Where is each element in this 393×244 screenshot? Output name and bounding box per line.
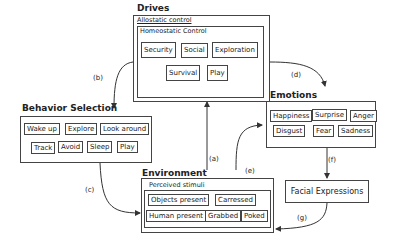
emotions-box: Happiness Surprise Anger Disgust Fear Sa… (266, 101, 376, 148)
environment-title: Environment (142, 168, 207, 178)
behavior-look-around: Look around (100, 123, 149, 135)
edge-label-e: (e) (245, 167, 255, 175)
allostatic-label: Allostatic control (137, 16, 191, 24)
edge-label-b: (b) (93, 74, 103, 82)
stimulus-poked: Poked (241, 210, 268, 222)
edge-label-c: (c) (85, 186, 94, 194)
stimulus-objects-present: Objects present (148, 194, 209, 206)
emotion-happiness: Happiness (270, 110, 312, 122)
drive-exploration: Exploration (212, 42, 258, 58)
emotion-sadness: Sadness (338, 125, 373, 137)
behavior-selection-box: Wake up Explore Look around Track Avoid … (20, 116, 152, 163)
homeostatic-box: Homeostatic Control Security Social Expl… (137, 26, 264, 98)
behavior-sleep: Sleep (87, 141, 112, 153)
behavior-track: Track (31, 142, 55, 154)
stimulus-grabbed: Grabbed (205, 210, 241, 222)
emotion-anger: Anger (350, 110, 377, 122)
emotion-disgust: Disgust (273, 125, 305, 137)
behavior-wake-up: Wake up (24, 123, 60, 135)
behavior-play: Play (117, 141, 138, 153)
homeostatic-label: Homeostatic Control (140, 27, 207, 35)
drives-box: Allostatic control Homeostatic Control S… (133, 15, 270, 102)
behavior-explore: Explore (65, 123, 97, 135)
drive-survival: Survival (166, 65, 200, 81)
emotion-surprise: Surprise (312, 109, 347, 121)
perceived-stimuli-label: Perceived stimuli (149, 181, 204, 189)
drive-security: Security (141, 42, 176, 58)
facial-expressions-box: Facial Expressions (285, 180, 369, 203)
environment-box: Perceived stimuli Objects present Carres… (141, 178, 274, 233)
edge-label-g: (g) (297, 214, 307, 222)
behavior-avoid: Avoid (58, 141, 83, 153)
emotion-fear: Fear (313, 125, 334, 137)
edge-label-f: (f) (328, 156, 336, 164)
drive-social: Social (181, 43, 208, 58)
behavior-selection-title: Behavior Selection (22, 103, 117, 113)
edge-label-d: (d) (291, 71, 301, 79)
drives-title: Drives (137, 3, 169, 13)
drive-play: Play (207, 65, 228, 81)
stimulus-carressed: Carressed (215, 194, 256, 206)
perceived-stimuli-box: Objects present Carressed Human present … (144, 190, 271, 228)
emotions-title: Emotions (270, 90, 317, 100)
stimulus-human-present: Human present (146, 210, 206, 222)
edge-label-a: (a) (209, 155, 219, 163)
